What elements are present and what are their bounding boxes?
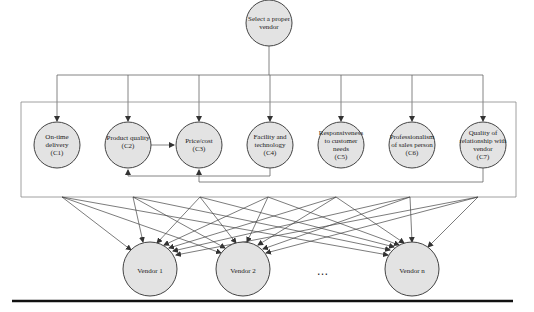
criterion-label-c5: Responsiveness to customer needs (C5) bbox=[317, 129, 365, 161]
label-line: to customer bbox=[325, 137, 358, 145]
label-line: of sales person bbox=[391, 141, 433, 149]
label-line: Quality of bbox=[469, 129, 498, 137]
vendor-label-n: Vendor n bbox=[387, 267, 437, 275]
vendor-label-1: Vendor 1 bbox=[125, 267, 175, 275]
criterion-label-c4: Facility and technology (C4) bbox=[248, 133, 292, 157]
label-line: delivery bbox=[46, 141, 69, 149]
label-line: (C3) bbox=[193, 145, 206, 153]
label-line: Product quality bbox=[107, 134, 150, 142]
label-line: Facility and bbox=[253, 133, 286, 141]
ellipsis: … bbox=[317, 264, 330, 278]
goal-label: Select a proper vendor bbox=[247, 15, 291, 31]
goal-connectors bbox=[57, 46, 483, 121]
criterion-label-c1: On-time delivery (C1) bbox=[35, 133, 79, 157]
label-line: vendor bbox=[473, 145, 492, 153]
label-line: (C7) bbox=[477, 153, 490, 161]
label-line: needs bbox=[333, 145, 349, 153]
criterion-label-c7: Quality of relationship with vendor (C7) bbox=[459, 129, 507, 161]
criterion-label-c3: Price/cost (C3) bbox=[177, 137, 221, 153]
vendor-label-2: Vendor 2 bbox=[218, 267, 268, 275]
label-line: Price/cost bbox=[185, 137, 213, 145]
label-line: (C4) bbox=[264, 149, 277, 157]
label-line: (C1) bbox=[51, 149, 64, 157]
label-line: Professionalism bbox=[390, 133, 435, 141]
label-line: On-time bbox=[45, 133, 68, 141]
goal-label-line2: vendor bbox=[259, 23, 278, 31]
label-line: (C6) bbox=[406, 149, 419, 157]
goal-label-line1: Select a proper bbox=[248, 15, 290, 23]
label-line: Responsiveness bbox=[319, 129, 363, 137]
label-line: technology bbox=[254, 141, 285, 149]
label-line: (C5) bbox=[335, 153, 348, 161]
label-line: relationship with bbox=[459, 137, 506, 145]
criterion-label-c6: Professionalism of sales person (C6) bbox=[388, 133, 436, 157]
criterion-label-c2: Product quality (C2) bbox=[104, 134, 152, 150]
label-line: (C2) bbox=[122, 142, 135, 150]
